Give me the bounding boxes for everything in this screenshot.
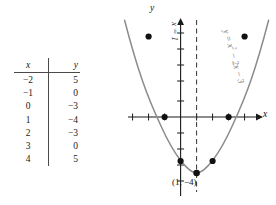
table-header-row: x y (14, 58, 80, 73)
data-point (226, 114, 232, 120)
cell-y: 5 (49, 153, 81, 166)
axis-of-symmetry-label: x = 1 (170, 22, 180, 41)
cell-y: 0 (49, 140, 81, 153)
cell-y: −3 (49, 127, 81, 140)
column-header-x: x (14, 58, 49, 73)
x-axis-arrow (256, 114, 263, 121)
cell-x: 3 (14, 140, 49, 153)
table-row: 0 −3 (14, 100, 80, 113)
data-point (210, 158, 216, 164)
data-point (162, 114, 168, 120)
values-table-grid: x y −2 5 −1 0 0 −3 1 −4 (14, 58, 80, 166)
column-header-y: y (49, 58, 81, 73)
vertex-label: (1, −4) (172, 177, 197, 187)
values-table-head: x y (14, 58, 80, 73)
table-row: 1 −4 (14, 114, 80, 127)
cell-x: 2 (14, 127, 49, 140)
cell-x: 1 (14, 114, 49, 127)
data-point (178, 158, 184, 164)
cell-x: −1 (14, 87, 49, 100)
cell-y: −3 (49, 100, 81, 113)
table-row: −1 0 (14, 87, 80, 100)
cell-y: 5 (49, 73, 81, 88)
table-row: 4 5 (14, 153, 80, 166)
parabola-plot (110, 0, 276, 205)
cell-x: 4 (14, 153, 49, 166)
data-point (242, 33, 248, 39)
x-axis-label: x (263, 109, 267, 119)
table-row: −2 5 (14, 73, 80, 88)
y-axis-label: y (150, 3, 154, 13)
cell-y: 0 (49, 87, 81, 100)
data-point (146, 33, 152, 39)
table-row: 2 −3 (14, 127, 80, 140)
cell-y: −4 (49, 114, 81, 127)
values-table-body: −2 5 −1 0 0 −3 1 −4 2 −3 (14, 73, 80, 167)
cell-x: −2 (14, 73, 49, 88)
figure-parabola-with-table: x y −2 5 −1 0 0 −3 1 −4 (0, 0, 276, 205)
plot-svg (110, 0, 276, 205)
cell-x: 0 (14, 100, 49, 113)
table-row: 3 0 (14, 140, 80, 153)
values-table: x y −2 5 −1 0 0 −3 1 −4 (14, 58, 80, 166)
data-point (193, 170, 200, 177)
y-axis (177, 18, 184, 196)
x-axis (128, 114, 263, 121)
